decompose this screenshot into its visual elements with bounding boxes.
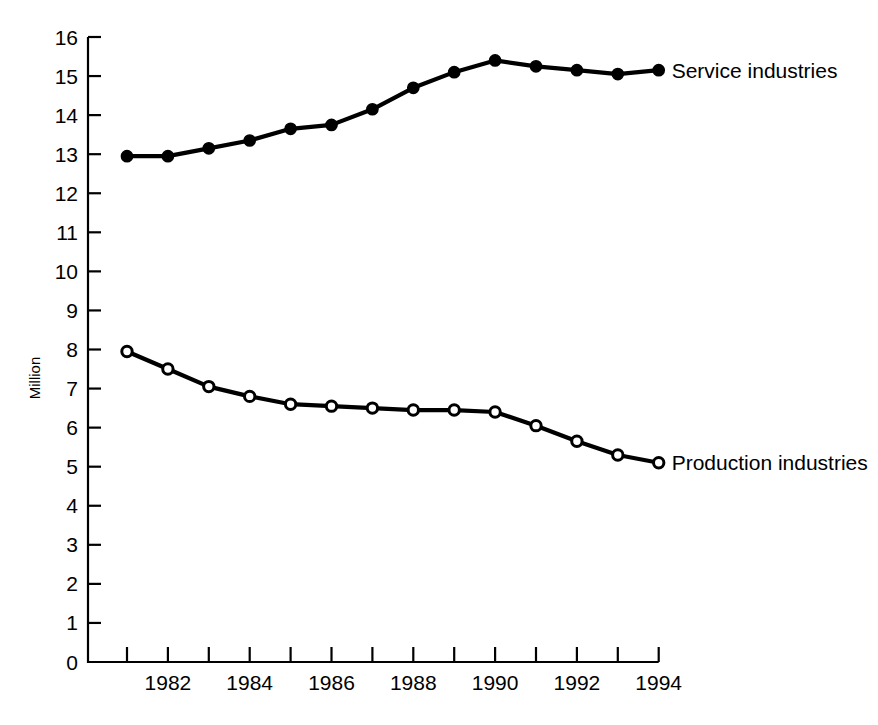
data-point-marker <box>326 119 337 130</box>
y-tick-label: 13 <box>55 143 78 166</box>
data-point-marker <box>531 420 541 430</box>
x-tick-label: 1994 <box>635 671 682 694</box>
data-point-marker <box>490 55 501 66</box>
data-point-marker <box>571 65 582 76</box>
y-tick-label: 5 <box>66 455 78 478</box>
x-axis-tick-labels: 1982198419861988199019921994 <box>145 671 683 694</box>
y-tick-label: 2 <box>66 572 78 595</box>
series-label-production: Production industries <box>672 451 868 474</box>
data-point-marker <box>121 151 132 162</box>
data-point-marker <box>653 65 664 76</box>
data-point-marker <box>203 143 214 154</box>
chart-container: 012345678910111213141516 198219841986198… <box>0 0 878 725</box>
series-label-service: Service industries <box>672 59 838 82</box>
y-tick-label: 1 <box>66 611 78 634</box>
y-tick-label: 12 <box>55 182 78 205</box>
y-tick-label: 3 <box>66 533 78 556</box>
x-tick-label: 1990 <box>472 671 519 694</box>
data-point-marker <box>408 405 418 415</box>
x-axis-ticks <box>127 647 659 662</box>
series-labels: Service industriesProduction industries <box>672 59 868 475</box>
y-tick-label: 4 <box>66 494 78 517</box>
y-tick-label: 11 <box>56 221 78 244</box>
data-point-marker <box>572 436 582 446</box>
data-point-marker <box>449 67 460 78</box>
data-point-marker <box>285 123 296 134</box>
data-point-marker <box>449 405 459 415</box>
axis-lines <box>88 37 659 662</box>
data-point-marker <box>367 104 378 115</box>
x-tick-label: 1992 <box>554 671 601 694</box>
series-group <box>121 55 664 468</box>
data-point-marker <box>654 458 664 468</box>
data-point-marker <box>245 391 255 401</box>
data-point-marker <box>285 399 295 409</box>
data-point-marker <box>530 61 541 72</box>
y-tick-label: 9 <box>66 299 78 322</box>
y-tick-label: 6 <box>66 416 78 439</box>
y-tick-label: 15 <box>55 65 78 88</box>
y-tick-label: 10 <box>55 260 78 283</box>
x-tick-label: 1982 <box>145 671 192 694</box>
y-axis-tick-labels: 012345678910111213141516 <box>55 26 79 674</box>
y-axis-title: Million <box>26 357 43 400</box>
series-service <box>121 55 664 162</box>
line-chart: 012345678910111213141516 198219841986198… <box>0 0 878 725</box>
y-tick-label: 0 <box>66 651 78 674</box>
y-tick-label: 16 <box>55 26 78 49</box>
axes <box>88 37 659 662</box>
y-tick-label: 8 <box>66 338 78 361</box>
y-axis-ticks <box>88 37 101 623</box>
data-point-marker <box>326 401 336 411</box>
data-point-marker <box>244 135 255 146</box>
x-tick-label: 1984 <box>226 671 273 694</box>
x-tick-label: 1986 <box>308 671 355 694</box>
x-tick-label: 1988 <box>390 671 437 694</box>
y-tick-label: 7 <box>66 377 78 400</box>
data-point-marker <box>204 381 214 391</box>
data-point-marker <box>122 346 132 356</box>
data-point-marker <box>613 450 623 460</box>
series-production <box>122 346 664 468</box>
y-axis-title-group: Million <box>26 357 43 400</box>
data-point-marker <box>163 364 173 374</box>
y-tick-label: 14 <box>55 104 79 127</box>
data-point-marker <box>612 69 623 80</box>
data-point-marker <box>367 403 377 413</box>
data-point-marker <box>408 82 419 93</box>
data-point-marker <box>162 151 173 162</box>
data-point-marker <box>490 407 500 417</box>
